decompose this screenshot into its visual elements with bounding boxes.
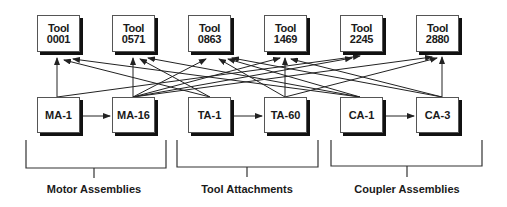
assembly-label: TA-60 <box>271 109 301 121</box>
tool-label: Tool <box>426 23 449 34</box>
tool-label: Tool <box>350 23 373 34</box>
tool-box-0571: Tool0571 <box>112 15 155 52</box>
tool-box-2880: Tool2880 <box>416 15 459 52</box>
bracket-coupler <box>331 140 482 166</box>
tool-label: Tool <box>122 23 145 34</box>
tool-number: 1469 <box>274 34 297 45</box>
assembly-label: CA-1 <box>349 109 375 121</box>
assembly-label: TA-1 <box>198 109 222 121</box>
tool-label: Tool <box>47 23 70 34</box>
tool-box-1469: Tool1469 <box>264 15 307 52</box>
group-label-tool: Tool Attachments <box>187 183 307 195</box>
tool-number: 2880 <box>426 34 449 45</box>
assembly-box-ma1: MA-1 <box>37 97 80 133</box>
tool-number: 0571 <box>122 34 145 45</box>
arrow-ca3-tool0863 <box>232 58 442 97</box>
tool-number: 0863 <box>198 34 221 45</box>
arrow-ma16-tool1469 <box>133 58 280 97</box>
group-label-motor: Motor Assemblies <box>34 183 154 195</box>
tool-label: Tool <box>274 23 297 34</box>
arrow-ta60-tool2880 <box>285 58 437 97</box>
tool-label: Tool <box>198 23 221 34</box>
tool-number: 0001 <box>47 34 70 45</box>
assembly-box-ta60: TA-60 <box>264 97 307 133</box>
assembly-box-ca3: CA-3 <box>416 97 459 133</box>
assembly-box-ma16: MA-16 <box>112 97 155 133</box>
bracket-motor <box>26 140 166 168</box>
assembly-label: MA-16 <box>117 109 150 121</box>
tool-box-0001: Tool0001 <box>37 15 80 52</box>
assembly-box-ca1: CA-1 <box>340 97 383 133</box>
tool-box-2245: Tool2245 <box>340 15 383 52</box>
tool-box-0863: Tool0863 <box>188 15 231 52</box>
assembly-label: CA-3 <box>425 109 451 121</box>
tool-number: 2245 <box>350 34 373 45</box>
assembly-box-ta1: TA-1 <box>188 97 231 133</box>
assembly-label: MA-1 <box>45 109 72 121</box>
bracket-tool <box>177 140 318 167</box>
group-label-coupler: Coupler Assemblies <box>342 183 472 195</box>
